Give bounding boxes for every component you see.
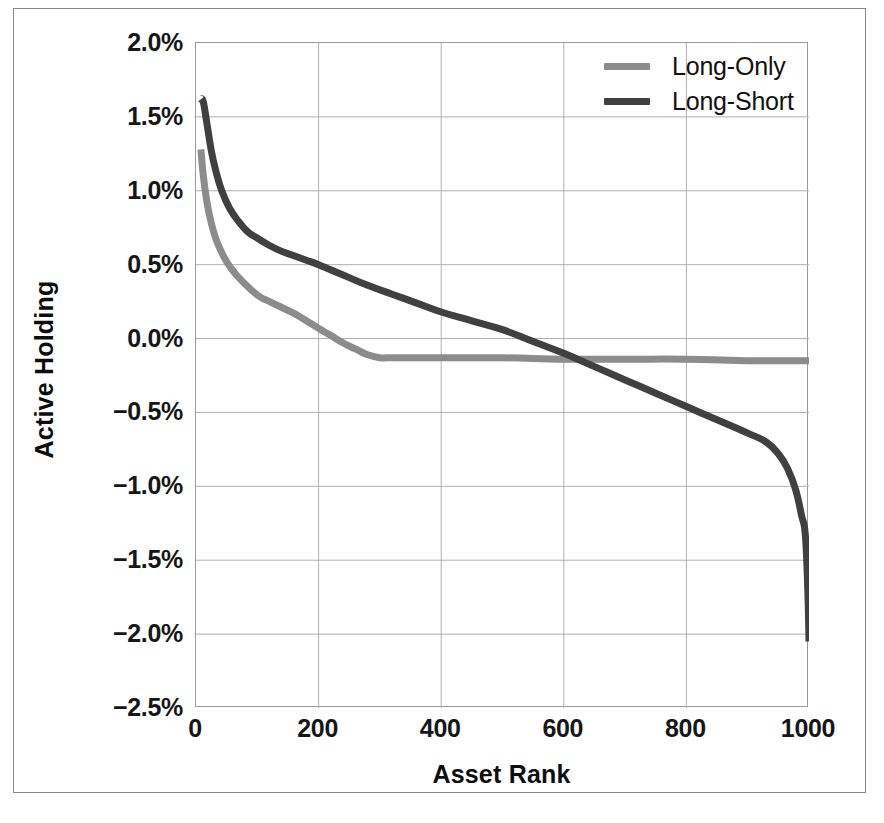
legend-item[interactable]: Long-Short: [604, 87, 794, 115]
x-tick-label: 200: [297, 716, 338, 741]
y-tick-label: −1.5%: [63, 547, 183, 572]
legend-label: Long-Only: [672, 54, 786, 79]
plot-area: [195, 42, 808, 707]
y-tick-label: 0.0%: [63, 325, 183, 350]
legend-item[interactable]: Long-Only: [604, 52, 786, 80]
x-axis-tick-labels: 02004006008001000: [195, 716, 808, 756]
x-tick-label: 600: [542, 716, 583, 741]
grid-lines: [196, 43, 809, 708]
y-axis-tick-labels: 2.0%1.5%1.0%0.5%0.0%−0.5%−1.0%−1.5%−2.0%…: [55, 42, 183, 707]
y-tick-label: −2.5%: [63, 695, 183, 720]
x-axis-title: Asset Rank: [195, 760, 808, 789]
y-tick-label: 2.0%: [63, 30, 183, 55]
legend-swatch-icon: [604, 98, 650, 105]
x-tick-label: 1000: [781, 716, 835, 741]
chart-legend: Long-OnlyLong-Short: [604, 52, 814, 114]
y-tick-label: −0.5%: [63, 399, 183, 424]
y-tick-label: 1.5%: [63, 103, 183, 128]
y-tick-label: −1.0%: [63, 473, 183, 498]
legend-swatch-icon: [604, 63, 650, 70]
y-tick-label: 1.0%: [63, 177, 183, 202]
x-tick-label: 400: [420, 716, 461, 741]
legend-label: Long-Short: [672, 89, 794, 114]
chart-figure: 2.0%1.5%1.0%0.5%0.0%−0.5%−1.0%−1.5%−2.0%…: [0, 0, 884, 823]
y-tick-label: 0.5%: [63, 251, 183, 276]
x-tick-label: 800: [665, 716, 706, 741]
x-tick-label: 0: [188, 716, 202, 741]
y-tick-label: −2.0%: [63, 621, 183, 646]
y-axis-title: Active Holding: [30, 230, 59, 510]
